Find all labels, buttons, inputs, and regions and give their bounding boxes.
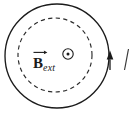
- circle-dot-icon: [63, 49, 73, 59]
- external-field-region-circle: [18, 18, 92, 92]
- current-label-clipped: [125, 49, 129, 70]
- physics-field-diagram: B ext: [0, 0, 131, 114]
- diagram-canvas: [0, 0, 131, 114]
